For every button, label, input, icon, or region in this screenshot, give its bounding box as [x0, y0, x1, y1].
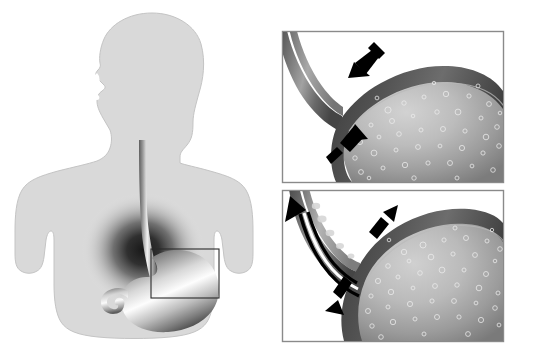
illustration-canvas	[0, 0, 533, 364]
figure-root: Lower esophageal sphincter function in g…	[0, 0, 533, 364]
panel-sphincter-closed	[277, 26, 505, 183]
human-torso-overview	[15, 13, 253, 339]
mouth-notch	[87, 92, 100, 100]
panel-sphincter-relaxed-reflux	[283, 186, 506, 342]
